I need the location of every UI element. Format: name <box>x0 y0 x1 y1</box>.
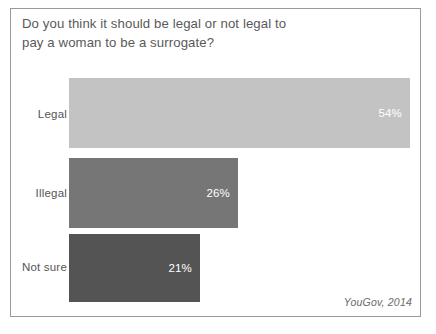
bar-value-illegal: 26% <box>206 187 230 199</box>
bar-value-legal: 54% <box>378 107 402 119</box>
category-label-not-sure: Not sure <box>22 261 67 273</box>
bar-legal: 54% <box>69 78 410 148</box>
category-label-legal: Legal <box>38 108 67 120</box>
chart-figure: Do you think it should be legal or not l… <box>0 0 436 334</box>
bar-value-not-sure: 21% <box>168 262 192 274</box>
category-label-illegal: Illegal <box>36 187 67 199</box>
source-attribution: YouGov, 2014 <box>344 296 412 308</box>
plot-area: Legal 54% Illegal 26% Not sure 21% <box>0 0 436 334</box>
bar-illegal: 26% <box>69 158 238 228</box>
bar-rect-legal <box>69 78 410 148</box>
bar-not-sure: 21% <box>69 234 200 302</box>
